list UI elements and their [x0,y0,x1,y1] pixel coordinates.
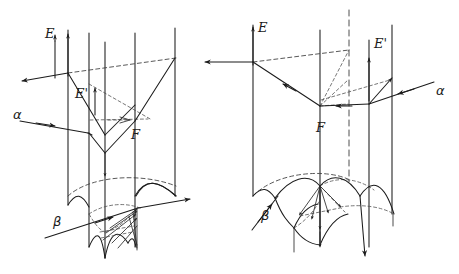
left-label-E: E [45,27,55,40]
left-ray-alpha [20,121,92,135]
left-waist-dashed-curve [68,178,176,214]
figure-canvas: E E' α β F E E' α β F [0,0,459,274]
right-ray-alpha [320,82,434,106]
left-cusped-boundary [68,183,176,258]
right-label-E-prime: E' [374,37,387,50]
left-ray-internal-V [68,73,135,135]
right-label-beta: β [261,209,269,222]
left-label-alpha: α [13,108,22,121]
right-label-F: F [316,121,325,134]
left-dashed-inner-arrow [108,117,131,123]
right-label-E: E [258,21,268,34]
right-label-alpha: α [436,84,445,97]
left-ray-beta-outgoing [136,183,190,208]
left-panel-graphics [0,0,459,274]
right-cylinder-generators [253,25,392,247]
right-ray-E-outgoing [205,62,320,106]
left-label-beta: β [53,215,61,228]
right-waist-dashed-curve [253,173,394,214]
left-label-E-prime: E' [75,87,88,100]
left-label-F: F [131,128,140,141]
left-ray-E-outgoing [22,35,68,81]
right-cusp-fan-arrows [294,186,340,252]
